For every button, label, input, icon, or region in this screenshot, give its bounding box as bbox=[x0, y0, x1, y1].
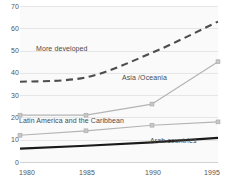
data-point-marker bbox=[18, 133, 22, 137]
data-point-marker bbox=[150, 102, 154, 106]
chart-container: 010203040506070 1980198519901995 More de… bbox=[0, 0, 226, 176]
data-point-marker bbox=[84, 129, 88, 133]
data-point-marker bbox=[150, 123, 154, 127]
series-annotation-arab-countries: Arab countries bbox=[150, 137, 197, 145]
series-line bbox=[20, 62, 218, 115]
series-layer bbox=[0, 0, 226, 176]
series-annotation-asia-oceania: Asia /Oceania bbox=[122, 74, 167, 82]
series-asia-oceania bbox=[18, 60, 220, 117]
series-annotation-more-developed: More developed bbox=[36, 45, 88, 53]
data-point-marker bbox=[216, 60, 220, 64]
data-point-marker bbox=[216, 120, 220, 124]
series-annotation-latin-america-and-the-caribbean: Latin America and the Caribbean bbox=[19, 117, 124, 125]
